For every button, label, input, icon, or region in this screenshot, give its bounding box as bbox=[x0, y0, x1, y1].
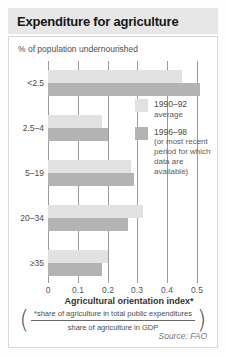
bar-1990-92 bbox=[48, 115, 102, 128]
chart-panel: % of population undernourished <2.52.5–4… bbox=[8, 36, 218, 348]
legend-sublabel: (or most recent period for which data ar… bbox=[154, 137, 216, 177]
bar-1996-98 bbox=[48, 263, 102, 276]
legend: 1990–92 average 1996–98 (or most recent … bbox=[135, 99, 215, 177]
category-label: <2.5 bbox=[9, 78, 48, 88]
category-row: <2.5 bbox=[9, 70, 217, 96]
legend-label: 1990–92 bbox=[154, 99, 216, 110]
bar-1990-92 bbox=[48, 250, 108, 263]
category-label: 5–19 bbox=[9, 168, 48, 178]
legend-text-1996-98: 1996–98 (or most recent period for which… bbox=[154, 127, 216, 178]
bar-1996-98 bbox=[48, 128, 108, 141]
x-tick-label: 0.1 bbox=[63, 285, 93, 295]
category-row: ≥35 bbox=[9, 250, 217, 276]
title-bar: Expenditure for agriculture bbox=[8, 8, 218, 34]
category-label: ≥35 bbox=[9, 258, 48, 268]
bar-1990-92 bbox=[48, 70, 182, 83]
x-axis-title: Agricultural orientation index* bbox=[42, 296, 216, 306]
legend-text-1990-92: 1990–92 average bbox=[154, 99, 216, 120]
legend-item-1990-92: 1990–92 average bbox=[135, 99, 215, 120]
bar-1990-92 bbox=[48, 160, 131, 173]
legend-swatch-1990-92 bbox=[135, 99, 148, 112]
open-paren: ( bbox=[20, 310, 29, 332]
legend-swatch-1996-98 bbox=[135, 127, 148, 140]
footnote: ( *share of agriculture in total public … bbox=[9, 309, 217, 332]
category-label: 2.5–4 bbox=[9, 123, 48, 133]
x-tick-label: 0.2 bbox=[93, 285, 123, 295]
source-credit: Source: FAO bbox=[159, 331, 208, 341]
x-tick-label: 0.4 bbox=[152, 285, 182, 295]
infographic: Expenditure for agriculture % of populat… bbox=[0, 0, 226, 348]
legend-sublabel: average bbox=[154, 110, 216, 120]
bar-pair bbox=[48, 250, 210, 276]
footnote-numerator: *share of agriculture in total public ex… bbox=[31, 309, 195, 321]
category-row: 20–34 bbox=[9, 205, 217, 231]
x-axis-ticks: 00.10.20.30.40.5 bbox=[48, 283, 210, 296]
bar-pair bbox=[48, 70, 210, 96]
bar-1996-98 bbox=[48, 83, 200, 96]
x-tick-label: 0 bbox=[33, 285, 63, 295]
y-axis-unit-label: % of population undernourished bbox=[9, 37, 217, 55]
legend-label: 1996–98 bbox=[154, 127, 216, 138]
bar-1996-98 bbox=[48, 218, 128, 231]
legend-item-1996-98: 1996–98 (or most recent period for which… bbox=[135, 127, 215, 178]
x-tick-label: 0.3 bbox=[122, 285, 152, 295]
close-paren: ) bbox=[197, 310, 206, 332]
x-tick-label: 0.5 bbox=[182, 285, 212, 295]
category-label: 20–34 bbox=[9, 213, 48, 223]
plot-region: <2.52.5–45–1920–34≥35 1990–92 average 19… bbox=[9, 61, 217, 306]
chart-title: Expenditure for agriculture bbox=[17, 14, 178, 29]
bar-pair bbox=[48, 205, 210, 231]
bar-1990-92 bbox=[48, 205, 143, 218]
footnote-fraction: *share of agriculture in total public ex… bbox=[31, 309, 195, 332]
bar-1996-98 bbox=[48, 173, 134, 186]
